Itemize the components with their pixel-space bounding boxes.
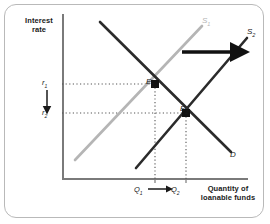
supply-curve-s1 (75, 26, 202, 160)
x-tick-label-q2: Q2 (171, 185, 180, 196)
supply-curve-s2-label: S2 (247, 27, 255, 38)
y-axis-title: Interest rate (18, 16, 60, 35)
supply-curve-s1-label: S1 (202, 16, 210, 27)
demand-curve-label: D (230, 150, 236, 159)
y-tick-label-r2: r2 (42, 108, 47, 119)
equilibrium-e1-label: E1 (146, 77, 154, 88)
supply-curve-s2 (136, 38, 247, 168)
equilibrium-e2-label: E2 (180, 104, 188, 115)
x-axis-title: Quantity of loanable funds (196, 184, 260, 203)
figure-container: Interest rate Quantity of loanable funds… (0, 0, 270, 224)
y-tick-label-r1: r1 (42, 78, 47, 89)
x-tick-label-q1: Q1 (134, 185, 143, 196)
